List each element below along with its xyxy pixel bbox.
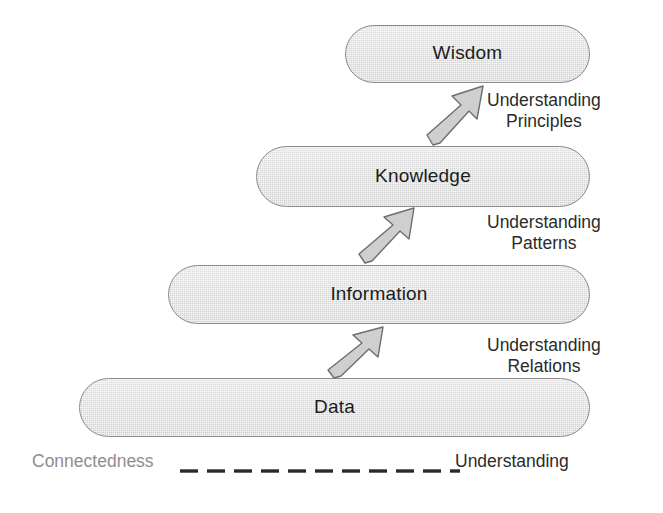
arrow-knowledge-to-wisdom-icon [425,81,493,149]
annotation-line-1: Understanding [487,335,601,356]
level-bar-information: Information [168,265,590,324]
dikw-diagram: Wisdom Knowledge Information Data Unders… [0,0,663,513]
legend-dashed-axis-icon [180,448,460,498]
arrow-information-to-knowledge-icon [357,203,425,267]
arrow-data-to-information-icon [326,322,394,382]
level-bar-wisdom: Wisdom [345,25,590,83]
annotation-line-1: Understanding [487,90,601,111]
level-label-wisdom: Wisdom [433,42,503,64]
legend-axis: Connectedness Understanding [0,448,663,494]
annotation-line-2: Relations [487,356,601,377]
annotation-understanding-patterns: Understanding Patterns [487,212,601,254]
level-label-knowledge: Knowledge [375,165,471,187]
level-bar-knowledge: Knowledge [256,146,590,207]
annotation-line-2: Patterns [487,233,601,254]
legend-label-connectedness: Connectedness [32,451,154,472]
annotation-line-1: Understanding [487,212,601,233]
annotation-understanding-relations: Understanding Relations [487,335,601,377]
level-bar-data: Data [79,378,590,437]
level-label-data: Data [314,396,355,418]
annotation-understanding-principles: Understanding Principles [487,90,601,132]
legend-label-understanding: Understanding [455,451,569,472]
level-label-information: Information [330,283,427,305]
annotation-line-2: Principles [487,111,601,132]
